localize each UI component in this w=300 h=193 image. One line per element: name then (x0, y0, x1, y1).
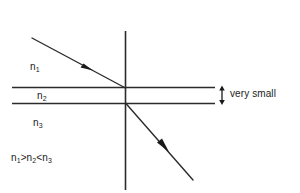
medium-label-n2: n2 (37, 91, 47, 101)
medium-label-n1: n1 (30, 62, 40, 72)
relation-sub-3: 3 (48, 157, 52, 164)
subscript-2: 2 (43, 95, 47, 102)
refractive-index-relation: n1>n2<n3 (11, 153, 52, 163)
incident-ray (32, 38, 126, 88)
subscript-3: 3 (39, 122, 43, 129)
thickness-annotation-label: very small (230, 89, 276, 99)
thickness-double-arrow-icon (219, 86, 225, 106)
subscript-1: 1 (36, 66, 40, 73)
medium-label-n3: n3 (33, 118, 43, 128)
relation-sub-1: 1 (17, 157, 21, 164)
optics-ray-diagram: n1 n2 n3 n1>n2<n3 very small (0, 0, 300, 193)
relation-sub-2: 2 (32, 157, 36, 164)
